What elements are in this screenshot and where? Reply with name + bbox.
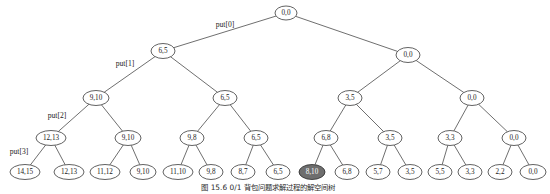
node-label: 6,8	[322, 134, 331, 142]
node-label: 8,10	[306, 168, 319, 176]
node-label: 9,10	[137, 168, 150, 176]
tree-node[interactable]: 6,8	[314, 131, 338, 146]
tree-node[interactable]: 5,5	[428, 165, 452, 180]
tree-node[interactable]: 6,5	[266, 165, 290, 180]
tree-node[interactable]: 3,5	[398, 165, 422, 180]
tree-node[interactable]: 8,10	[299, 165, 325, 180]
tree-node[interactable]: 0,0	[502, 131, 526, 146]
node-label: 6,5	[252, 134, 261, 142]
node-label: 0,0	[529, 168, 538, 176]
figure-caption: 图 15.6 0/1 背包问题求解过程的解空间树	[201, 183, 335, 192]
tree-node[interactable]: 9,8	[199, 165, 223, 180]
node-label: 3,3	[446, 134, 455, 142]
tree-node[interactable]: 6,5	[213, 91, 237, 106]
tree-node[interactable]: 0,0	[396, 48, 420, 63]
tree-node[interactable]: 9,10	[115, 131, 141, 146]
node-label: 0,0	[510, 134, 519, 142]
node-label: 11,12	[97, 168, 113, 176]
tree-node[interactable]: 3,3	[438, 131, 462, 146]
edge-label-put2: put[2]	[48, 111, 67, 120]
tree-node[interactable]: 0,0	[460, 91, 484, 106]
node-label: 14,15	[17, 168, 34, 176]
node-label: 2,2	[496, 168, 505, 176]
tree-node[interactable]: 3,5	[338, 91, 362, 106]
tree-node[interactable]: 9,8	[180, 131, 204, 146]
node-label: 11,10	[170, 168, 186, 176]
node-label: 9,10	[90, 94, 103, 102]
tree-node[interactable]: 6,5	[244, 131, 268, 146]
node-label: 12,13	[61, 168, 78, 176]
solution-space-tree-figure: 0,06,50,09,106,53,50,012,139,109,86,56,8…	[0, 0, 550, 194]
tree-node[interactable]: 11,10	[163, 165, 193, 180]
node-label: 9,8	[207, 168, 216, 176]
node-label: 3,5	[406, 168, 415, 176]
tree-node[interactable]: 14,15	[10, 165, 40, 180]
edge-label-put0: put[0]	[216, 20, 235, 29]
node-label: 9,8	[188, 134, 197, 142]
tree-node[interactable]: 0,0	[275, 6, 297, 20]
node-label: 0,0	[468, 94, 477, 102]
tree-node[interactable]: 3,5	[378, 131, 402, 146]
node-label: 0,0	[404, 51, 413, 59]
tree-node[interactable]: 12,13	[54, 165, 84, 180]
tree-node[interactable]: 0,0	[520, 165, 546, 180]
tree-node[interactable]: 2,2	[488, 165, 512, 180]
node-label: 5,7	[374, 168, 383, 176]
edge-label-put1: put[1]	[116, 59, 135, 68]
node-label: 6,5	[159, 47, 168, 55]
node-label: 6,8	[343, 168, 352, 176]
tree-node[interactable]: 9,10	[130, 165, 156, 180]
node-label: 12,13	[43, 134, 60, 142]
tree-node[interactable]: 6,8	[335, 165, 359, 180]
node-label: 8,7	[239, 168, 248, 176]
tree-node[interactable]: 12,13	[36, 131, 66, 146]
node-label: 3,3	[466, 168, 475, 176]
node-label: 6,5	[274, 168, 283, 176]
node-label: 9,10	[122, 134, 135, 142]
node-label: 0,0	[282, 9, 291, 17]
node-label: 6,5	[221, 94, 230, 102]
tree-node[interactable]: 5,7	[366, 165, 390, 180]
tree-node[interactable]: 11,12	[90, 165, 120, 180]
node-label: 3,5	[386, 134, 395, 142]
tree-node[interactable]: 8,7	[231, 165, 255, 180]
edge-label-put3: put[3]	[10, 147, 29, 156]
tree-node[interactable]: 3,3	[458, 165, 482, 180]
node-label: 5,5	[436, 168, 445, 176]
node-label: 3,5	[346, 94, 355, 102]
tree-node[interactable]: 6,5	[151, 44, 175, 59]
tree-node[interactable]: 9,10	[83, 91, 109, 106]
